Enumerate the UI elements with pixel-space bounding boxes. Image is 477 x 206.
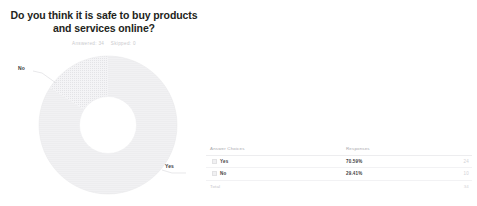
column-header-responses[interactable]: Responses xyxy=(342,143,442,155)
table-header-row: Answer Choices Responses xyxy=(206,143,472,155)
row-count-no: 10 xyxy=(442,168,472,181)
chart-subtitle: Answered: 34 Skipped: 0 xyxy=(4,40,204,47)
table-row: Yes 70.59% 24 xyxy=(206,155,472,168)
chart-header: Do you think it is safe to buy products … xyxy=(4,9,204,47)
leader-line-yes xyxy=(162,170,186,173)
donut-label-yes: Yes xyxy=(165,163,174,169)
row-label-yes-text: Yes xyxy=(220,159,228,164)
row-percent-no: 29.41% xyxy=(342,168,442,181)
donut-chart-svg xyxy=(16,52,206,202)
row-label-no-text: No xyxy=(220,171,226,176)
row-label-no: No xyxy=(206,168,342,181)
row-percent-yes: 70.59% xyxy=(342,155,442,168)
total-spacer xyxy=(342,180,442,193)
column-header-count[interactable] xyxy=(442,143,472,155)
total-count: 34 xyxy=(442,180,472,193)
page-title: Do you think it is safe to buy products … xyxy=(4,9,204,35)
responses-table: Answer Choices Responses Yes 70.59% 24 N… xyxy=(206,143,472,193)
donut-label-no: No xyxy=(18,65,25,71)
swatch-icon xyxy=(212,171,217,176)
row-count-yes: 24 xyxy=(442,155,472,168)
table-row: No 29.41% 10 xyxy=(206,168,472,181)
total-label: Total xyxy=(206,180,342,193)
swatch-icon xyxy=(212,159,217,164)
column-header-answer-choices[interactable]: Answer Choices xyxy=(206,143,342,155)
table-total-row: Total 34 xyxy=(206,180,472,193)
row-label-yes: Yes xyxy=(206,155,342,168)
donut-chart: No Yes xyxy=(16,52,206,202)
